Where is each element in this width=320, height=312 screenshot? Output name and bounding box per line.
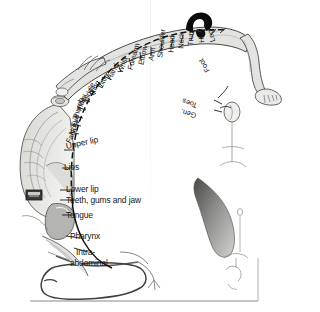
radial-label-hip: Hip: [197, 32, 205, 43]
flat-label-lips: Lips: [64, 163, 79, 172]
tongue-gray-shape: [194, 178, 243, 257]
scan-seam-artifact: [150, 0, 151, 200]
radial-label-neck: Neck: [177, 32, 185, 49]
flat-label-teeth-gums-jaw: Teeth, gums and jaw: [66, 196, 141, 205]
genital-inset-icon: [224, 102, 240, 122]
flat-label-tongue: Tongue: [66, 211, 93, 220]
flat-label-lower-lip: Lower lip: [66, 185, 99, 194]
flat-label-abdominal: abdominal: [70, 259, 108, 268]
radial-label-head: Head: [167, 35, 176, 53]
baseline-frame: [30, 258, 258, 301]
leg-and-foot-with-toes-icon: [240, 34, 281, 105]
flat-label-intra: Intra-: [76, 248, 95, 257]
radial-label-trunk: Trunk: [187, 28, 194, 46]
teeth-swatch-icon: [26, 190, 42, 200]
flat-label-pharynx: Pharynx: [70, 232, 100, 241]
right-inset-line-drawings: [220, 122, 246, 167]
pharynx-outline-icon: [224, 254, 248, 290]
